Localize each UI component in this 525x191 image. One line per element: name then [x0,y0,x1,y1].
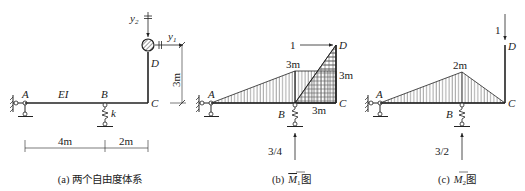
panel-c: 1 3/2 A B C D 2m (c)M2图 [365,14,516,187]
dof-y1-arrow [155,41,183,49]
node-label-C: C [339,97,347,109]
value-C-bottom: 3m [312,104,327,116]
reaction-label: 3/2 [435,145,449,157]
node-label-A: A [207,88,215,100]
load-label: 1 [495,24,501,36]
node-label-D: D [507,40,516,52]
dim-label-2m: 2m [119,135,134,147]
dim-label-3m: 3m [170,73,182,88]
dim-label-4m: 4m [58,135,73,147]
caption-a: (a) 两个自由度体系 [58,173,142,186]
lumped-mass-icon [142,39,154,51]
label-EI: EI [57,88,70,100]
label-k: k [111,107,117,119]
value-B-top: 3m [286,58,301,70]
label-y1: y1 [167,30,176,44]
node-label-B: B [278,108,285,120]
label-y2: y2 [129,12,139,26]
node-label-B: B [101,88,108,100]
moment-area-AB [211,71,295,103]
node-label-C: C [151,97,159,109]
node-label-D: D [150,57,159,69]
value-B-peak: 2m [453,59,468,71]
node-label-A: A [375,88,383,100]
spring-support-icon [454,103,470,127]
caption-c: (c)M2图 [438,174,476,187]
node-label-C: C [508,97,516,109]
panel-b: 1 3/4 A B C D 3m 3m 3m (b)M1图 [196,39,354,187]
node-label-D: D [338,39,347,51]
load-label: 1 [290,39,296,51]
spring-support-icon [287,103,303,127]
panel-a: y2 y1 3m A EI B C D k [10,12,186,186]
value-C-side: 3m [339,69,354,81]
reaction-label: 3/4 [268,145,283,157]
structural-diagram: y2 y1 3m A EI B C D k [0,0,525,191]
node-label-B: B [446,108,453,120]
moment-area-ABC [380,72,505,103]
dof-y2-arrow [144,12,152,37]
caption-b: (b)M1图 [272,174,311,187]
node-label-A: A [21,88,29,100]
